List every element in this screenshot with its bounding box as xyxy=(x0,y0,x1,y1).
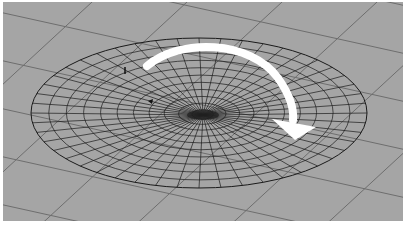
viewport-canvas[interactable] xyxy=(3,2,403,221)
pivot-marker-icon[interactable] xyxy=(148,99,153,104)
wireframe-dish[interactable] xyxy=(31,38,367,188)
3d-viewport[interactable] xyxy=(3,2,403,221)
